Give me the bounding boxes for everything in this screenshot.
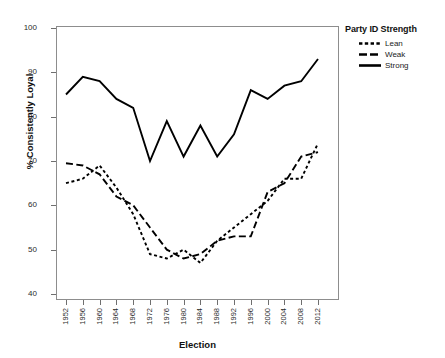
- y-tick-label: 100: [24, 24, 37, 32]
- y-tick-label: 40: [28, 290, 37, 298]
- x-tick-mark: [200, 300, 201, 305]
- x-tick-mark: [133, 300, 134, 305]
- y-tick-mark: [51, 117, 56, 118]
- dashed-line-swatch: [359, 50, 381, 59]
- y-tick-label: 60: [28, 201, 37, 209]
- x-tick-mark: [268, 300, 269, 305]
- y-tick-mark: [51, 28, 56, 29]
- x-tick-mark: [116, 300, 117, 305]
- legend-entry-strong: Strong: [345, 61, 443, 70]
- x-tick-label: 2000: [264, 308, 272, 325]
- x-tick-label: 1996: [247, 308, 255, 325]
- y-tick-label: 50: [28, 246, 37, 254]
- legend-label: Weak: [385, 50, 405, 59]
- x-tick-mark: [234, 300, 235, 305]
- y-tick-mark: [51, 294, 56, 295]
- x-tick-mark: [83, 300, 84, 305]
- x-tick-mark: [184, 300, 185, 305]
- x-axis-title: Election: [56, 339, 339, 350]
- x-tick-label: 1960: [96, 308, 104, 325]
- x-tick-label: 1992: [230, 308, 238, 325]
- x-tick-label: 1972: [146, 308, 154, 325]
- x-tick-mark: [100, 300, 101, 305]
- y-tick-mark: [51, 72, 56, 73]
- legend-entries: LeanWeakStrong: [345, 39, 443, 70]
- x-tick-mark: [217, 300, 218, 305]
- y-tick-mark: [51, 205, 56, 206]
- legend-entry-weak: Weak: [345, 50, 443, 59]
- x-tick-label: 2004: [280, 308, 288, 325]
- x-tick-mark: [251, 300, 252, 305]
- legend: Party ID Strength LeanWeakStrong: [345, 24, 443, 72]
- legend-label: Strong: [385, 61, 409, 70]
- y-tick-mark: [51, 161, 56, 162]
- legend-title: Party ID Strength: [345, 24, 443, 34]
- x-tick-mark: [167, 300, 168, 305]
- dotted-line-swatch: [359, 39, 381, 48]
- y-tick-label: 80: [28, 113, 37, 121]
- plot-series-layer: [56, 26, 339, 300]
- x-tick-label: 1980: [180, 308, 188, 325]
- x-tick-mark: [301, 300, 302, 305]
- x-tick-mark: [284, 300, 285, 305]
- line-chart: % Consistently Loyal 405060708090100 195…: [0, 0, 445, 358]
- x-tick-mark: [318, 300, 319, 305]
- x-tick-mark: [66, 300, 67, 305]
- legend-label: Lean: [385, 39, 403, 48]
- x-tick-label: 1956: [79, 308, 87, 325]
- y-tick-mark: [51, 250, 56, 251]
- x-tick-label: 2008: [297, 308, 305, 325]
- legend-entry-lean: Lean: [345, 39, 443, 48]
- y-tick-label: 70: [28, 157, 37, 165]
- series-line-weak: [66, 152, 318, 258]
- series-line-strong: [66, 59, 318, 161]
- x-tick-label: 1952: [62, 308, 70, 325]
- x-tick-label: 1976: [163, 308, 171, 325]
- x-tick-label: 1968: [129, 308, 137, 325]
- x-tick-label: 1984: [196, 308, 204, 325]
- x-tick-label: 2012: [314, 308, 322, 325]
- series-line-lean: [66, 143, 318, 263]
- y-axis-ticks: 405060708090100: [0, 0, 49, 358]
- x-tick-label: 1988: [213, 308, 221, 325]
- x-tick-mark: [150, 300, 151, 305]
- solid-line-swatch: [359, 61, 381, 70]
- y-tick-label: 90: [28, 68, 37, 76]
- x-tick-label: 1964: [112, 308, 120, 325]
